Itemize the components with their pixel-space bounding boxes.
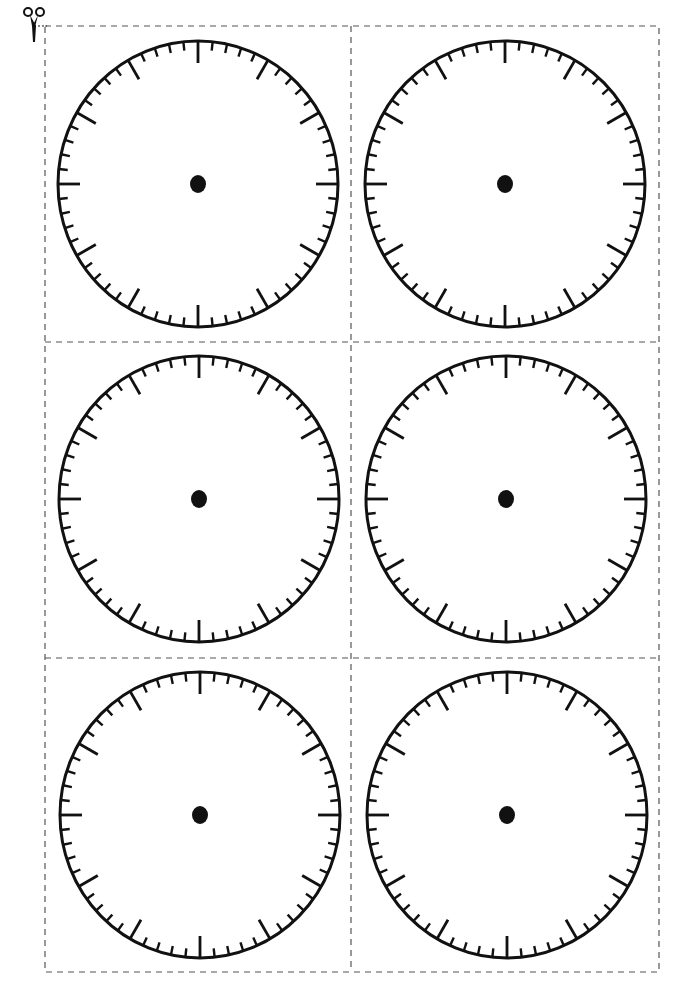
minute-tick xyxy=(393,415,400,420)
minute-tick xyxy=(142,368,146,376)
minute-tick xyxy=(156,626,159,635)
minute-tick xyxy=(367,513,376,514)
minute-tick xyxy=(449,621,453,629)
minute-tick xyxy=(373,540,382,543)
minute-tick xyxy=(63,785,72,787)
minute-tick xyxy=(252,621,256,629)
minute-tick xyxy=(295,274,302,280)
minute-tick xyxy=(62,469,71,471)
minute-tick xyxy=(476,315,478,324)
minute-tick xyxy=(296,589,303,595)
minute-tick xyxy=(611,100,618,105)
minute-tick xyxy=(251,53,255,61)
minute-tick xyxy=(277,699,282,706)
minute-tick xyxy=(604,905,611,911)
minute-tick xyxy=(277,923,282,930)
minute-tick xyxy=(320,757,328,761)
minute-tick xyxy=(286,284,292,291)
minute-tick xyxy=(62,527,71,529)
minute-tick xyxy=(213,632,214,641)
minute-tick xyxy=(626,441,634,445)
minute-tick xyxy=(61,212,70,214)
minute-tick xyxy=(95,589,102,595)
minute-tick xyxy=(319,554,327,558)
minute-tick xyxy=(559,368,563,376)
minute-tick xyxy=(142,621,146,629)
hour-tick xyxy=(130,920,141,939)
minute-tick xyxy=(85,263,92,268)
minute-tick xyxy=(401,88,408,94)
minute-tick xyxy=(547,679,550,688)
minute-tick xyxy=(366,198,375,199)
minute-tick xyxy=(61,800,70,801)
minute-tick xyxy=(583,383,588,390)
minute-tick xyxy=(635,169,644,170)
minute-tick xyxy=(96,905,103,911)
minute-tick xyxy=(170,359,172,368)
minute-tick xyxy=(413,709,419,716)
minute-tick xyxy=(212,317,213,326)
minute-tick xyxy=(492,673,493,682)
minute-tick xyxy=(379,870,387,874)
minute-tick xyxy=(214,673,215,682)
minute-tick xyxy=(464,942,467,951)
minute-tick xyxy=(65,140,74,143)
hour-tick xyxy=(386,744,405,755)
minute-tick xyxy=(521,673,522,682)
minute-tick xyxy=(593,284,599,291)
minute-tick xyxy=(155,48,158,57)
hour-tick xyxy=(565,604,576,623)
minute-tick xyxy=(87,894,94,899)
minute-tick xyxy=(394,894,401,899)
minute-tick xyxy=(319,441,327,445)
minute-tick xyxy=(635,843,644,845)
hour-tick xyxy=(384,113,403,124)
minute-tick xyxy=(368,154,377,156)
minute-tick xyxy=(613,894,620,899)
minute-tick xyxy=(87,731,94,736)
minute-tick xyxy=(213,357,214,366)
minute-tick xyxy=(94,274,101,280)
minute-tick xyxy=(560,684,564,692)
hour-tick xyxy=(78,428,97,439)
minute-tick xyxy=(464,679,467,688)
minute-tick xyxy=(602,88,609,94)
clock-face xyxy=(366,356,646,642)
minute-tick xyxy=(631,455,640,458)
minute-tick xyxy=(183,42,184,51)
minute-tick xyxy=(368,829,377,830)
minute-tick xyxy=(117,383,122,390)
minute-tick xyxy=(240,679,243,688)
minute-tick xyxy=(411,284,417,291)
minute-tick xyxy=(116,68,121,75)
minute-tick xyxy=(95,403,102,409)
minute-tick xyxy=(558,306,562,314)
minute-tick xyxy=(143,684,147,692)
minute-tick xyxy=(253,937,257,945)
clock-face xyxy=(367,672,647,958)
minute-tick xyxy=(478,946,480,955)
minute-tick xyxy=(633,212,642,214)
minute-tick xyxy=(105,393,111,400)
minute-tick xyxy=(288,915,294,922)
minute-tick xyxy=(306,731,313,736)
minute-tick xyxy=(85,100,92,105)
minute-tick xyxy=(327,527,336,529)
minute-tick xyxy=(373,455,382,458)
minute-tick xyxy=(169,315,171,324)
minute-tick xyxy=(118,699,123,706)
minute-tick xyxy=(72,870,80,874)
hour-tick xyxy=(259,920,270,939)
minute-tick xyxy=(603,589,610,595)
minute-tick xyxy=(374,771,383,774)
minute-tick xyxy=(296,403,303,409)
minute-tick xyxy=(603,403,610,409)
minute-tick xyxy=(329,513,338,514)
hour-tick xyxy=(258,375,269,394)
minute-tick xyxy=(143,937,147,945)
minute-tick xyxy=(534,675,536,684)
minute-tick xyxy=(318,126,326,130)
minute-tick xyxy=(70,126,78,130)
minute-tick xyxy=(104,284,110,291)
minute-tick xyxy=(491,357,492,366)
